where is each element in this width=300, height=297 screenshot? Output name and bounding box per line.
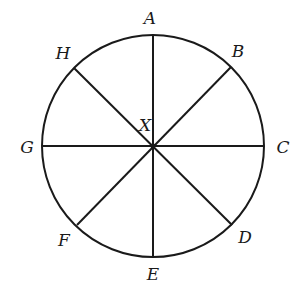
label-f: F <box>57 230 71 250</box>
label-d: D <box>237 227 252 247</box>
label-b: B <box>231 41 245 61</box>
label-g: G <box>20 137 34 157</box>
center-point <box>151 144 156 149</box>
label-h: H <box>55 43 72 63</box>
label-c: C <box>276 137 289 157</box>
circle-diagram: A B C D E F G H X <box>0 0 300 297</box>
label-x-center: X <box>137 115 152 135</box>
label-e: E <box>146 264 160 284</box>
label-a: A <box>142 8 156 28</box>
